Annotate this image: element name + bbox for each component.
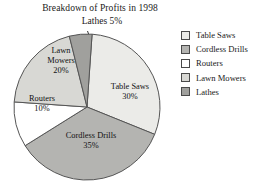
legend-item-lawn-mowers[interactable]: Lawn Mowers xyxy=(181,71,269,85)
legend-swatch-lathes xyxy=(181,87,190,96)
legend-label-table-saws: Table Saws xyxy=(196,30,235,40)
legend-item-cordless-drills[interactable]: Cordless Drills xyxy=(181,42,269,56)
legend-label-cordless-drills: Cordless Drills xyxy=(196,44,248,54)
legend-swatch-table-saws xyxy=(181,31,190,40)
legend-item-lathes[interactable]: Lathes xyxy=(181,85,269,99)
legend-swatch-cordless-drills xyxy=(181,45,190,54)
legend-swatch-routers xyxy=(181,59,190,68)
legend-item-routers[interactable]: Routers xyxy=(181,56,269,70)
chart-legend: Table Saws Cordless Drills Routers Lawn … xyxy=(181,28,269,99)
legend-label-lawn-mowers: Lawn Mowers xyxy=(196,73,246,83)
pie-slice-group xyxy=(14,34,160,180)
legend-label-lathes: Lathes xyxy=(196,87,219,97)
pie-chart-figure: Breakdown of Profits in 1998 Lathes 5% T… xyxy=(0,0,270,189)
legend-item-table-saws[interactable]: Table Saws xyxy=(181,28,269,42)
legend-swatch-lawn-mowers xyxy=(181,73,190,82)
legend-label-routers: Routers xyxy=(196,58,223,68)
